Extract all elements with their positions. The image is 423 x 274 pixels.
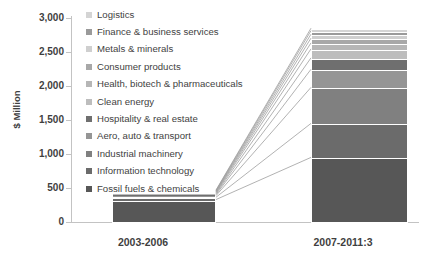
bar-segment-aero-auto-transport[interactable] (311, 70, 408, 88)
bar-segment-information-technology[interactable] (112, 198, 216, 200)
x-axis-label-0: 2003-2006 (82, 236, 204, 248)
legend-label: Industrial machinery (97, 149, 183, 159)
x-axis-label-1: 2007-2011:3 (282, 236, 404, 248)
legend-label: Aero, auto & transport (97, 131, 191, 141)
legend-item-metals-minerals[interactable]: Metals & minerals (86, 41, 266, 58)
bar-segment-consumer-products[interactable] (311, 39, 408, 44)
legend-swatch-icon (86, 151, 92, 157)
legend-swatch-icon (86, 46, 92, 52)
legend-item-finance-business-services[interactable]: Finance & business services (86, 23, 266, 40)
bar-segment-logistics[interactable] (311, 29, 408, 31)
chart-legend: LogisticsFinance & business servicesMeta… (86, 6, 266, 197)
legend-swatch-icon (86, 168, 92, 174)
legend-item-logistics[interactable]: Logistics (86, 6, 266, 23)
bar-segment-clean-energy[interactable] (311, 50, 408, 59)
legend-label: Consumer products (97, 62, 181, 72)
legend-swatch-icon (86, 186, 92, 192)
y-tick-label-2500: 2,500 (8, 47, 64, 57)
y-tick-label-1000: 1,000 (8, 149, 64, 159)
legend-label: Logistics (97, 10, 134, 20)
stacked-bar-chart: $ Million 05001,0001,5002,0002,5003,000 … (0, 0, 423, 274)
bar-segment-health-biotech-pharmaceuticals[interactable] (311, 44, 408, 50)
legend-label: Information technology (97, 166, 194, 176)
legend-swatch-icon (86, 133, 92, 139)
bar-2007-2011-3[interactable] (311, 29, 408, 223)
legend-swatch-icon (86, 64, 92, 70)
legend-item-aero-auto-transport[interactable]: Aero, auto & transport (86, 128, 266, 145)
legend-label: Fossil fuels & chemicals (97, 184, 199, 194)
legend-swatch-icon (86, 29, 92, 35)
y-tick-label-2000: 2,000 (8, 81, 64, 91)
y-tick-label-0: 0 (8, 217, 64, 227)
legend-item-consumer-products[interactable]: Consumer products (86, 58, 266, 75)
legend-swatch-icon (86, 116, 92, 122)
legend-item-fossil-fuels-chemicals[interactable]: Fossil fuels & chemicals (86, 180, 266, 197)
legend-label: Finance & business services (97, 27, 219, 37)
bar-segment-fossil-fuels-chemicals[interactable] (112, 201, 216, 223)
legend-swatch-icon (86, 99, 92, 105)
legend-item-information-technology[interactable]: Information technology (86, 163, 266, 180)
legend-item-industrial-machinery[interactable]: Industrial machinery (86, 145, 266, 162)
y-axis-tick-labels: 05001,0001,5002,0002,5003,000 (0, 0, 64, 274)
bar-segment-fossil-fuels-chemicals[interactable] (311, 158, 408, 223)
legend-label: Health, biotech & pharmaceuticals (97, 79, 243, 89)
bar-segment-information-technology[interactable] (311, 124, 408, 158)
y-tick-label-500: 500 (8, 183, 64, 193)
legend-label: Hospitality & real estate (97, 114, 198, 124)
y-tick-label-3000: 3,000 (8, 13, 64, 23)
legend-label: Metals & minerals (97, 44, 173, 54)
legend-swatch-icon (86, 81, 92, 87)
bar-segment-industrial-machinery[interactable] (311, 88, 408, 124)
y-tick-label-1500: 1,500 (8, 115, 64, 125)
legend-item-health-biotech-pharmaceuticals[interactable]: Health, biotech & pharmaceuticals (86, 76, 266, 93)
legend-item-clean-energy[interactable]: Clean energy (86, 93, 266, 110)
bar-segment-metals-minerals[interactable] (311, 35, 408, 39)
legend-item-hospitality-real-estate[interactable]: Hospitality & real estate (86, 110, 266, 127)
bar-segment-finance-business-services[interactable] (311, 32, 408, 36)
bar-segment-hospitality-real-estate[interactable] (311, 59, 408, 70)
legend-label: Clean energy (97, 97, 154, 107)
legend-swatch-icon (86, 12, 92, 18)
